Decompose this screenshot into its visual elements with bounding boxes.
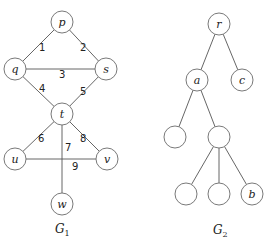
graph-caption-G1: G1	[55, 222, 70, 238]
node-label: s	[103, 63, 109, 76]
edge-a-n2	[201, 90, 215, 126]
edge-n2-b	[225, 147, 247, 185]
edge-a-n1	[179, 90, 193, 126]
node-label: w	[57, 198, 67, 211]
edge-r-c	[223, 34, 238, 70]
captions-layer: G1G2	[55, 222, 228, 239]
edge-label: 9	[72, 161, 78, 172]
edge-label: 3	[59, 69, 65, 80]
edge-label: 2	[80, 42, 86, 53]
node-n1	[164, 126, 186, 148]
node-label: q	[11, 63, 18, 76]
node-label: p	[58, 16, 65, 29]
graph-diagram: pqstuvwracb 123456789 G1G2	[0, 0, 274, 239]
edge-r-a	[201, 34, 215, 70]
edge-label: 7	[65, 142, 71, 153]
node-label: b	[248, 188, 255, 201]
node-label: v	[104, 153, 111, 166]
edge-label: 5	[80, 86, 86, 97]
edge-label: 8	[80, 133, 86, 144]
edge-label: 4	[39, 83, 45, 94]
edge-n2-n3	[192, 147, 214, 185]
node-label: u	[11, 153, 18, 166]
node-label: t	[60, 108, 65, 121]
graph-caption-G2: G2	[213, 223, 228, 239]
edge-label: 1	[39, 42, 45, 53]
node-n2	[208, 126, 230, 148]
edge-label: 6	[38, 133, 44, 144]
node-label: a	[194, 74, 201, 87]
node-n4	[208, 183, 230, 205]
node-label: r	[216, 18, 222, 31]
node-label: c	[239, 74, 245, 87]
node-n3	[175, 183, 197, 205]
